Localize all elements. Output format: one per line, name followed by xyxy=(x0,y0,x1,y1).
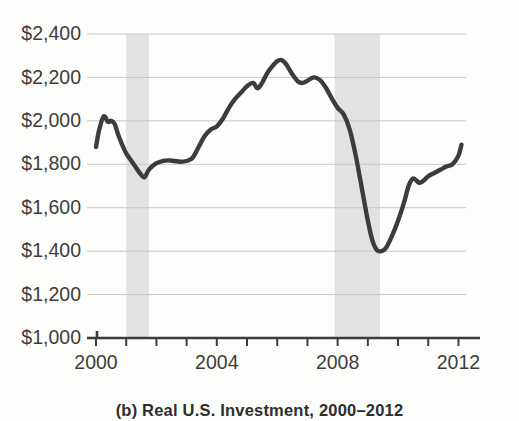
y-tick-label: $1,200 xyxy=(21,283,81,305)
x-axis-line xyxy=(96,331,480,338)
y-axis-tick-labels: $2,400$2,200$2,000$1,800$1,600$1,400$1,2… xyxy=(21,22,81,348)
x-tick-label: 2000 xyxy=(74,351,118,373)
x-axis-tick-labels: 2000200420082012 xyxy=(74,351,480,373)
y-tick-label: $1,000 xyxy=(21,326,81,348)
x-tick-label: 2004 xyxy=(195,351,239,373)
series-line-real-us-investment xyxy=(96,60,461,252)
y-tick-label: $1,800 xyxy=(21,152,81,174)
figure-caption: (b) Real U.S. Investment, 2000–2012 xyxy=(0,399,519,421)
x-tick-label: 2008 xyxy=(316,351,359,373)
y-tick-label: $2,200 xyxy=(21,66,81,88)
recession-band xyxy=(335,34,380,338)
y-axis-tick-marks xyxy=(87,34,96,338)
data-series-line xyxy=(96,60,461,252)
y-tick-label: $1,400 xyxy=(21,239,81,261)
recession-band xyxy=(126,34,149,338)
x-tick-label: 2012 xyxy=(437,351,480,373)
recession-bands xyxy=(126,34,380,338)
figure-panel: $2,400$2,200$2,000$1,800$1,600$1,400$1,2… xyxy=(0,0,519,421)
y-tick-label: $2,400 xyxy=(21,22,81,44)
y-tick-label: $1,600 xyxy=(21,196,81,218)
y-tick-label: $2,000 xyxy=(21,109,81,131)
investment-line-chart: $2,400$2,200$2,000$1,800$1,600$1,400$1,2… xyxy=(0,0,519,421)
